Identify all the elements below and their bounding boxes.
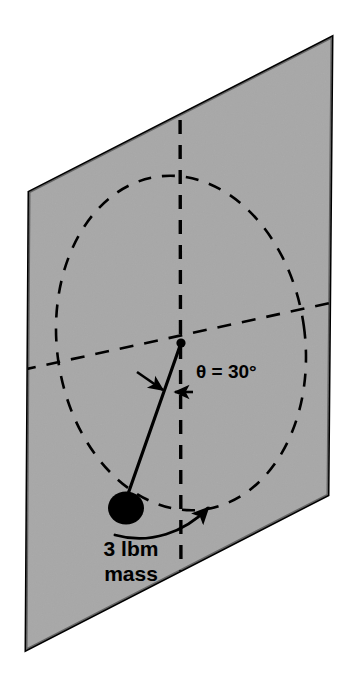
mass-label-line1: 3 lbm (104, 537, 159, 560)
angle-label: θ = 30° (196, 361, 257, 382)
mass-label-line2: mass (104, 562, 158, 585)
pendulum-diagram: θ = 30° 3 lbm mass (0, 0, 352, 686)
pivot-point (176, 338, 185, 347)
mass-bob (108, 492, 144, 525)
figure-root: θ = 30° 3 lbm mass (0, 0, 352, 686)
